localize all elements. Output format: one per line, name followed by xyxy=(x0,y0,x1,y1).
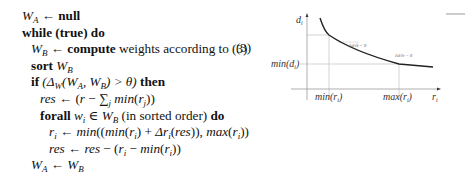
y-axis-arrow-icon xyxy=(306,13,309,17)
x-tick-max-r: max(ri) xyxy=(383,91,413,103)
slope-annotation-negative: ∂d/∂r < 0 xyxy=(349,43,367,48)
x-axis-arrow-icon xyxy=(437,88,441,91)
x-axis-label: ri xyxy=(432,91,438,103)
slope-annotation-zero: ∂d/∂r = 0 xyxy=(395,53,413,58)
weight-curve xyxy=(320,18,433,67)
y-axis-label: di xyxy=(296,14,303,26)
weight-function-figure: di min(di) min(ri) max(ri) ri ∂d/∂r < 0 … xyxy=(0,0,476,176)
x-tick-min-r: min(ri) xyxy=(315,91,343,103)
y-tick-min-d: min(di) xyxy=(271,58,300,70)
